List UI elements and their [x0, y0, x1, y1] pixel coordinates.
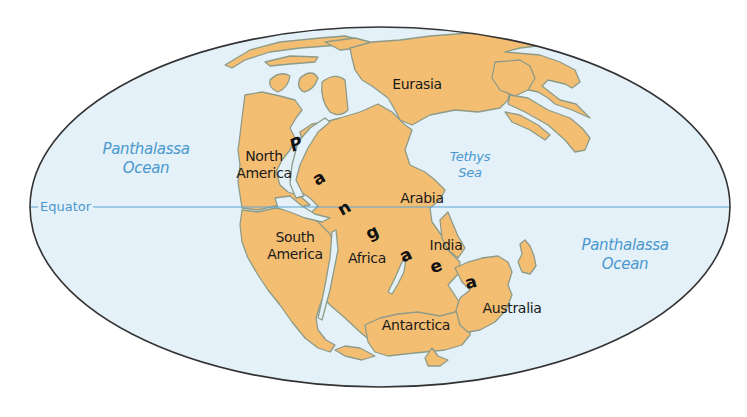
sea-type: Sea [440, 165, 500, 181]
sea-name: Tethys [440, 149, 500, 165]
sea-label-tethys: Tethys Sea [440, 149, 500, 181]
pangaea-map [0, 0, 747, 417]
label-australia: Australia [480, 300, 544, 317]
label-africa: Africa [342, 250, 392, 267]
ocean-label-panthalassa-east: Panthalassa Ocean [565, 236, 685, 274]
label-line: America [232, 165, 296, 182]
ocean-label-panthalassa-west: Panthalassa Ocean [86, 140, 206, 178]
label-antarctica: Antarctica [378, 317, 454, 334]
label-line: North [232, 148, 296, 165]
label-south-america: South America [262, 229, 328, 263]
label-eurasia: Eurasia [382, 76, 452, 93]
label-north-america: North America [232, 148, 296, 182]
label-line: South [262, 229, 328, 246]
ocean-type: Ocean [86, 159, 206, 178]
label-india: India [426, 237, 466, 254]
ocean-type: Ocean [565, 255, 685, 274]
ocean-name: Panthalassa [565, 236, 685, 255]
label-line: America [262, 246, 328, 263]
ocean-name: Panthalassa [86, 140, 206, 159]
label-arabia: Arabia [396, 190, 448, 207]
equator-label: Equator [38, 199, 93, 214]
